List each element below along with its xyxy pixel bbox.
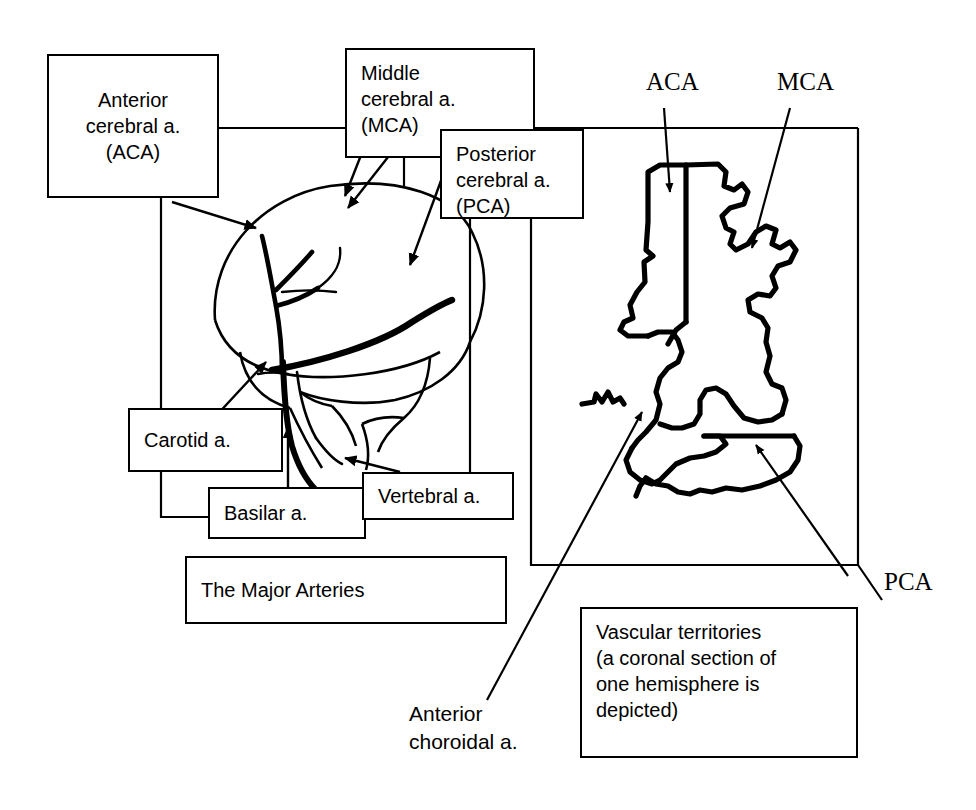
vertebral-basilar-vessel — [297, 372, 342, 464]
figure-title-box: The Major Arteries — [185, 556, 507, 624]
anterior-cerebral-artery-vessel — [262, 236, 318, 372]
label-box-posterior-cerebral-artery[interactable]: Posterior cerebral a. (PCA) — [440, 129, 584, 219]
coronal-hemisphere-outline — [582, 164, 800, 496]
callout-label-mca: MCA — [777, 68, 834, 96]
label-box-carotid-artery[interactable]: Carotid a. — [128, 408, 283, 472]
label-box-anterior-cerebral-artery[interactable]: Anterior cerebral a. (ACA) — [47, 54, 219, 198]
callout-label-pca: PCA — [884, 568, 933, 596]
callout-label-aca: ACA — [646, 68, 699, 96]
arrow-to-mca-mid — [348, 152, 392, 208]
label-box-vertebral-artery[interactable]: Vertebral a. — [362, 472, 514, 520]
figure-caption-box: Vascular territories (a coronal section … — [580, 607, 858, 758]
sylvian-stub-vessel — [258, 373, 288, 375]
pca-leader-tail — [858, 565, 882, 600]
label-box-basilar-artery[interactable]: Basilar a. — [208, 487, 366, 539]
callout-label-anterior-choroidal-artery: Anterior choroidal a. — [409, 700, 518, 756]
arrow-to-aca — [172, 202, 256, 228]
arrow-to-vertebral — [345, 458, 400, 472]
arrow-to-pca-territory — [756, 445, 848, 576]
figure-canvas: Anterior cerebral a. (ACA) Middle cerebr… — [0, 0, 976, 810]
arrow-to-aca-territory — [664, 108, 670, 192]
